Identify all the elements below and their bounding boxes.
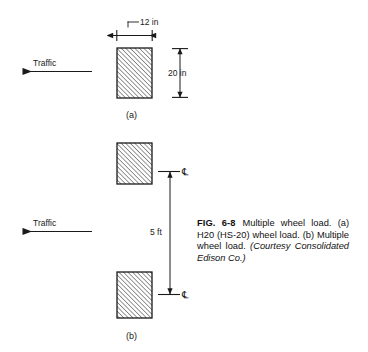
- wheel-rect-b-top: [117, 143, 152, 184]
- spacing-dimension-label-b: 5 ft: [150, 227, 162, 237]
- figure-caption: FIG. 6-8Multiple wheel load. (a) H20 (HS…: [197, 218, 349, 264]
- panel-label-a: (a): [126, 110, 137, 120]
- width-dimension-a: [113, 30, 156, 41]
- wheel-load-diagram: Traffic 12 in 20 in (a): [0, 0, 368, 352]
- traffic-label-a: Traffic: [33, 58, 57, 68]
- centerline-symbol-top: ℄: [181, 166, 189, 177]
- wheel-rect-b-bottom: [117, 272, 152, 318]
- spacing-dimension-b: [167, 172, 172, 295]
- traffic-label-b: Traffic: [33, 218, 57, 228]
- height-dimension-label-a: 20 in: [168, 68, 187, 78]
- figure-container: Traffic 12 in 20 in (a): [0, 0, 368, 352]
- width-leader-a: [128, 22, 140, 28]
- panel-label-b: (b): [126, 331, 137, 341]
- width-dimension-label-a: 12 in: [140, 17, 159, 27]
- wheel-rect-a: [117, 48, 152, 98]
- figure-number: FIG. 6-8: [197, 218, 236, 228]
- centerline-symbol-bottom: ℄: [181, 289, 189, 300]
